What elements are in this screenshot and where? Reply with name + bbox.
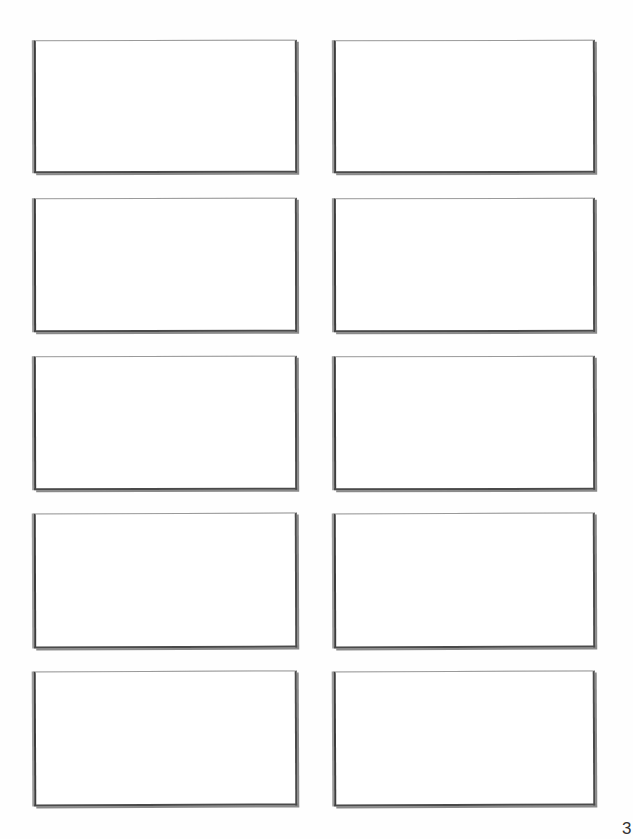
blank-card-7 — [34, 513, 297, 649]
page-number: 3 — [622, 819, 631, 839]
blank-card-9 — [34, 670, 298, 806]
blank-card-2 — [334, 40, 595, 174]
blank-card-4 — [334, 198, 595, 332]
blank-card-5 — [34, 356, 297, 491]
document-page: 3 — [0, 0, 633, 839]
blank-card-10 — [334, 670, 596, 806]
blank-card-3 — [34, 198, 297, 332]
blank-card-1 — [34, 40, 297, 174]
blank-card-6 — [334, 356, 595, 491]
blank-card-8 — [334, 513, 595, 649]
